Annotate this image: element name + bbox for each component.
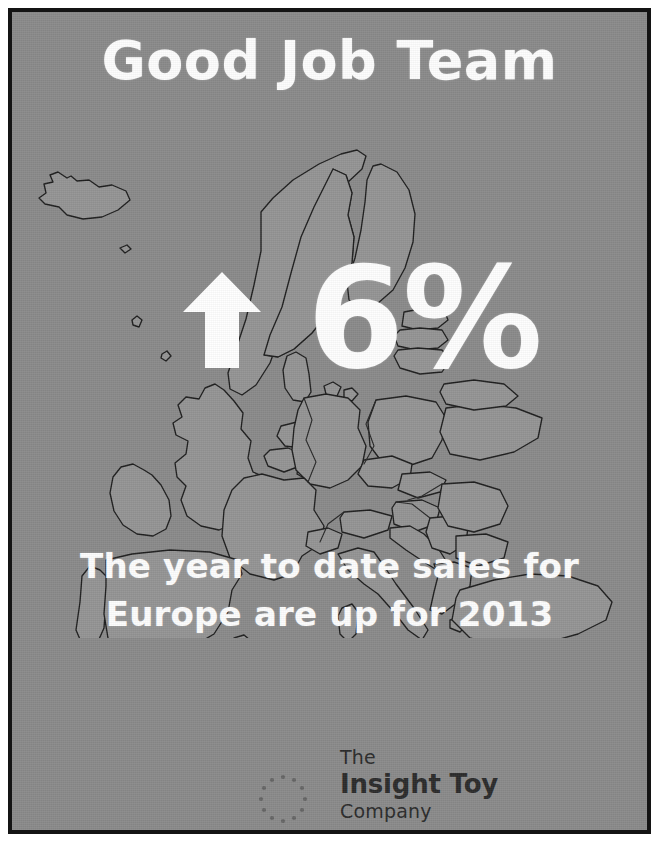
subtitle-text: The year to date sales for Europe are up… <box>12 542 647 639</box>
logo-text-block: The Insight Toy Company <box>340 747 498 821</box>
page-title: Good Job Team <box>12 32 647 90</box>
company-logo: The Insight Toy Company <box>252 747 532 834</box>
logo-line-company: Company <box>340 801 498 822</box>
logo-line-the: The <box>340 747 498 768</box>
poster-image: Good Job Team 6% The year to date sales … <box>0 0 659 846</box>
poster-frame: Good Job Team 6% The year to date sales … <box>8 8 651 834</box>
subtitle-line-1: The year to date sales for <box>12 542 647 590</box>
subtitle-line-2: Europe are up for 2013 <box>12 590 647 638</box>
percent-value: 6% <box>307 249 541 389</box>
logo-line-insight-toy: Insight Toy <box>340 770 498 798</box>
dotted-ring-icon <box>252 769 314 829</box>
up-arrow-icon <box>181 270 263 370</box>
